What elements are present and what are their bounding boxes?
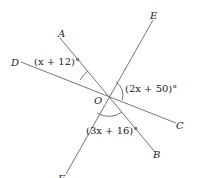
- angle-label-FOB: (3x + 16)°: [86, 125, 138, 136]
- label-point-C: C: [176, 120, 184, 131]
- label-point-B: B: [152, 149, 160, 160]
- label-point-D: D: [10, 57, 19, 68]
- angle-arc-EOC: [116, 82, 123, 100]
- angle-arc-AOD: [80, 71, 88, 80]
- label-point-F: F: [57, 173, 66, 178]
- diagram-canvas: A B C D E F O (x + 12)° (2x + 50)° (3x +…: [0, 0, 197, 178]
- line-EF: [66, 20, 153, 174]
- label-point-E: E: [149, 10, 158, 21]
- angle-label-EOC: (2x + 50)°: [125, 83, 177, 94]
- label-point-O: O: [94, 95, 102, 106]
- angle-label-AOD: (x + 12)°: [34, 56, 80, 67]
- label-point-A: A: [57, 28, 65, 39]
- angle-diagram: A B C D E F O (x + 12)° (2x + 50)° (3x +…: [0, 0, 197, 178]
